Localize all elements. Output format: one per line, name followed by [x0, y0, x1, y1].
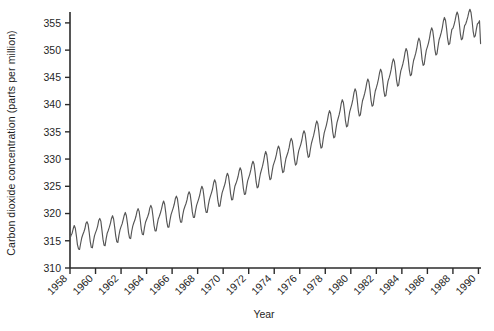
y-tick-label: 325: [43, 180, 61, 192]
y-axis-title: Carbon dioxide concentration (parts per …: [0, 0, 22, 285]
y-tick-label: 310: [43, 262, 61, 274]
x-tick-label: 1984: [376, 272, 401, 297]
y-tick-label: 345: [43, 71, 61, 83]
x-axis-title: Year: [0, 308, 494, 320]
co2-data-line: [70, 9, 481, 249]
x-tick-label: 1982: [351, 272, 376, 297]
y-tick-label: 335: [43, 126, 61, 138]
x-tick-label: 1976: [274, 272, 299, 297]
x-tick-label: 1960: [70, 272, 95, 297]
x-tick-label: 1972: [223, 272, 248, 297]
x-tick-label: 1990: [453, 272, 478, 297]
y-tick-label: 350: [43, 44, 61, 56]
x-tick-label: 1964: [121, 272, 146, 297]
y-axis-title-text: Carbon dioxide concentration (parts per …: [5, 30, 17, 255]
x-tick-label: 1980: [325, 272, 350, 297]
y-tick-label: 355: [43, 17, 61, 29]
x-tick-label: 1988: [427, 272, 452, 297]
x-tick-label: 1962: [95, 272, 120, 297]
x-tick-label: 1978: [300, 272, 325, 297]
x-axis-ticks: 1958196019621964196619681970197219741976…: [44, 268, 478, 297]
x-tick-label: 1968: [172, 272, 197, 297]
chart-plot-area: 310315320325330335340345350355 195819601…: [0, 0, 494, 331]
x-tick-label: 1958: [44, 272, 69, 297]
y-tick-label: 315: [43, 235, 61, 247]
x-tick-label: 1986: [402, 272, 427, 297]
y-axis-ticks: 310315320325330335340345350355: [43, 17, 70, 274]
y-tick-label: 340: [43, 98, 61, 110]
x-tick-label: 1974: [249, 272, 274, 297]
x-tick-label: 1966: [147, 272, 172, 297]
x-tick-label: 1970: [198, 272, 223, 297]
y-tick-label: 330: [43, 153, 61, 165]
y-tick-label: 320: [43, 207, 61, 219]
co2-chart-figure: Carbon dioxide concentration (parts per …: [0, 0, 494, 331]
